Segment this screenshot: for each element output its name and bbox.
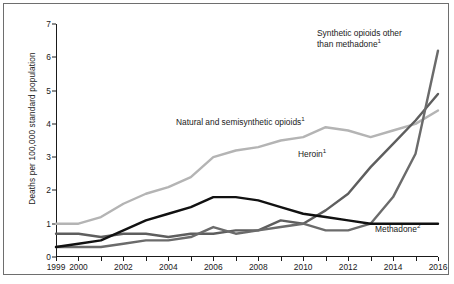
x-tick-mark <box>146 257 147 261</box>
x-tick-label: 2004 <box>159 262 178 272</box>
annotation-methadone: Methadone2 <box>375 224 420 235</box>
x-tick-mark <box>191 257 192 261</box>
x-tick-mark <box>56 257 57 261</box>
x-tick-mark <box>213 257 214 261</box>
x-tick-mark <box>416 257 417 261</box>
x-tick-mark <box>258 257 259 261</box>
x-tick-mark <box>348 257 349 261</box>
x-tick-label: 2010 <box>294 262 313 272</box>
x-tick-mark <box>371 257 372 261</box>
y-tick-label: 5 <box>46 86 51 96</box>
x-tick-mark <box>168 257 169 261</box>
footnote-marker-1: 1 <box>378 37 381 44</box>
x-tick-label: 2012 <box>339 262 358 272</box>
annotation-heroin: Heroin1 <box>298 149 326 160</box>
annotation-synthetic-line2: than methadone1 <box>317 39 402 50</box>
x-tick-mark <box>236 257 237 261</box>
annotation-methadone-text: Methadone <box>375 224 417 234</box>
y-tick-label: 1 <box>46 219 51 229</box>
series-line <box>56 197 438 247</box>
x-tick-label: 2000 <box>69 262 88 272</box>
annotation-synthetic-opioids: Synthetic opioids other than methadone1 <box>317 28 402 50</box>
y-tick-label: 2 <box>46 185 51 195</box>
x-tick-label: 2006 <box>204 262 223 272</box>
x-tick-label: 2008 <box>249 262 268 272</box>
annotation-natural-opioids: Natural and semisynthetic opioids1 <box>176 117 305 128</box>
x-tick-mark <box>78 257 79 261</box>
y-tick-label: 3 <box>46 152 51 162</box>
x-tick-label: 2016 <box>429 262 448 272</box>
x-tick-mark <box>438 257 439 261</box>
x-tick-mark <box>281 257 282 261</box>
x-tick-mark <box>393 257 394 261</box>
footnote-marker-4: 2 <box>417 222 420 229</box>
chart-figure: Deaths per 100,000 standard population 0… <box>0 0 454 284</box>
y-axis-label: Deaths per 100,000 standard population <box>28 19 37 239</box>
series-line <box>56 94 438 237</box>
y-tick-label: 0 <box>46 252 51 262</box>
y-tick-label: 6 <box>46 52 51 62</box>
x-tick-label: 2002 <box>114 262 133 272</box>
x-tick-label: 2014 <box>384 262 403 272</box>
series-lines <box>56 24 438 257</box>
footnote-marker-3: 1 <box>323 147 326 154</box>
x-tick-mark <box>303 257 304 261</box>
annotation-natural-text: Natural and semisynthetic opioids <box>176 117 301 127</box>
footnote-marker-2: 1 <box>301 115 304 122</box>
y-tick-label: 4 <box>46 119 51 129</box>
y-tick-label: 7 <box>46 19 51 29</box>
x-tick-mark <box>123 257 124 261</box>
x-tick-label: 1999 <box>47 262 66 272</box>
annotation-synthetic-line1: Synthetic opioids other <box>317 28 402 39</box>
chart-frame: Deaths per 100,000 standard population 0… <box>3 3 449 275</box>
x-tick-mark <box>101 257 102 261</box>
annotation-heroin-text: Heroin <box>298 149 323 159</box>
x-tick-mark <box>326 257 327 261</box>
plot-area: 01234567 1999200020022004200620082010201… <box>56 24 438 257</box>
